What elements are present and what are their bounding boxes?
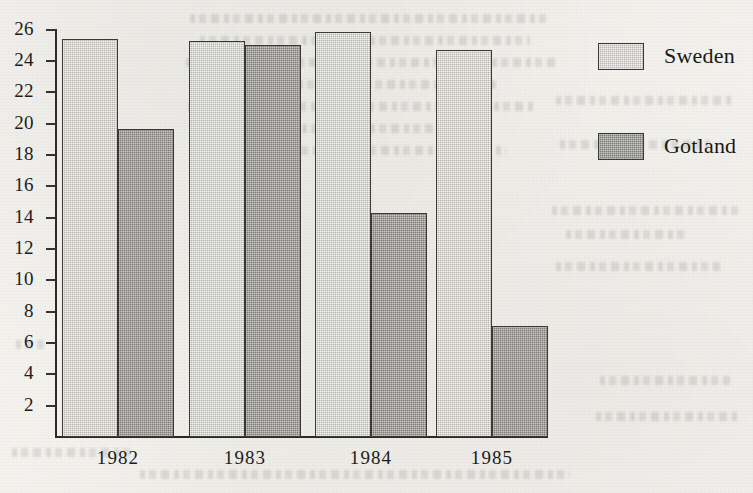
y-tick-26 [46, 29, 56, 31]
y-tick-20 [46, 123, 56, 125]
legend-label-gotland: Gotland [664, 133, 736, 159]
bar-gotland-1985 [492, 326, 548, 437]
chart-legend: Sweden Gotland [598, 34, 736, 214]
bar-gotland-1982 [118, 129, 174, 437]
y-tick-22 [46, 91, 56, 93]
y-tick-4 [46, 373, 56, 375]
y-tick-8 [46, 311, 56, 313]
x-tick-label-1982: 1982 [63, 447, 173, 469]
y-tick-label-10: 10 [0, 268, 34, 290]
y-tick-label-26: 26 [0, 18, 34, 40]
bar-gotland-1983 [245, 45, 301, 437]
bar-sweden-1984 [315, 32, 371, 437]
y-tick-label-20: 20 [0, 112, 34, 134]
y-tick-label-16: 16 [0, 174, 34, 196]
y-tick-2 [46, 405, 56, 407]
x-tick-label-1985: 1985 [437, 447, 547, 469]
x-tick-label-1984: 1984 [316, 447, 426, 469]
y-tick-label-24: 24 [0, 49, 34, 71]
y-tick-12 [46, 248, 56, 250]
bar-sweden-1985 [436, 50, 492, 437]
y-tick-10 [46, 279, 56, 281]
y-tick-24 [46, 60, 56, 62]
bar-gotland-1984 [371, 213, 427, 437]
y-tick-14 [46, 217, 56, 219]
y-tick-label-22: 22 [0, 80, 34, 102]
bar-chart: 26 24 22 20 18 16 14 12 10 8 6 4 2 1982 … [0, 0, 753, 493]
legend-item-sweden: Sweden [598, 34, 736, 78]
y-tick-label-14: 14 [0, 206, 34, 228]
y-tick-18 [46, 154, 56, 156]
chart-page: 26 24 22 20 18 16 14 12 10 8 6 4 2 1982 … [0, 0, 753, 493]
y-tick-6 [46, 342, 56, 344]
y-tick-16 [46, 185, 56, 187]
x-tick-label-1983: 1983 [190, 447, 300, 469]
y-tick-label-6: 6 [0, 331, 34, 353]
y-tick-label-18: 18 [0, 143, 34, 165]
y-tick-label-4: 4 [0, 362, 34, 384]
legend-swatch-gotland [598, 133, 644, 160]
bar-sweden-1983 [189, 41, 245, 437]
bar-sweden-1982 [62, 39, 118, 437]
legend-label-sweden: Sweden [664, 43, 735, 69]
legend-swatch-sweden [598, 43, 644, 70]
legend-item-gotland: Gotland [598, 124, 736, 168]
y-tick-label-2: 2 [0, 394, 34, 416]
y-tick-label-8: 8 [0, 300, 34, 322]
y-tick-label-12: 12 [0, 237, 34, 259]
